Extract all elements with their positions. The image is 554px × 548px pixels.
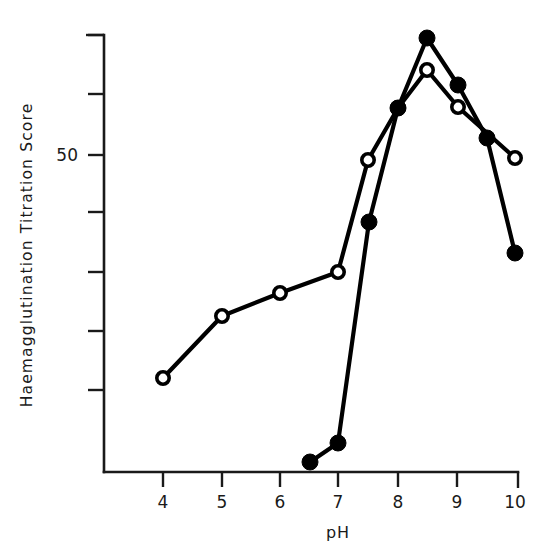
x-tick-label-10: 10	[504, 492, 526, 512]
x-tick-label-9: 9	[452, 492, 463, 512]
data-point-open-circle	[362, 154, 374, 166]
data-point-open-circle	[332, 266, 344, 278]
y-tick-label-50: 50	[56, 145, 78, 165]
series-line-filled-circle-series	[310, 38, 515, 462]
data-point-filled-circle	[419, 30, 435, 46]
x-tick-label-8: 8	[393, 492, 404, 512]
x-tick-label-7: 7	[333, 492, 344, 512]
chart-figure: 50 Haemagglutination Titration Score 4 5…	[0, 0, 554, 548]
data-point-filled-circle	[302, 454, 318, 470]
data-point-open-circle	[421, 64, 433, 76]
x-tick-label-5: 5	[217, 492, 228, 512]
y-axis-ticks	[88, 35, 104, 390]
data-point-filled-circle	[479, 130, 495, 146]
data-point-open-circle	[274, 287, 286, 299]
x-tick-label-6: 6	[275, 492, 286, 512]
y-axis-title: Haemagglutination Titration Score	[18, 103, 36, 408]
data-series-layer	[157, 30, 523, 470]
data-point-open-circle	[509, 152, 521, 164]
data-point-filled-circle	[390, 100, 406, 116]
data-point-filled-circle	[450, 77, 466, 93]
x-axis-title: pH	[326, 523, 350, 542]
data-point-filled-circle	[330, 435, 346, 451]
data-point-open-circle	[452, 101, 464, 113]
x-tick-label-4: 4	[158, 492, 169, 512]
x-axis-ticks	[163, 472, 457, 487]
series-line-open-circle-series	[163, 70, 515, 378]
data-point-open-circle	[216, 310, 228, 322]
data-point-open-circle	[157, 372, 169, 384]
data-point-filled-circle	[507, 245, 523, 261]
data-point-filled-circle	[361, 214, 377, 230]
chart-canvas: 50 Haemagglutination Titration Score 4 5…	[0, 0, 554, 548]
